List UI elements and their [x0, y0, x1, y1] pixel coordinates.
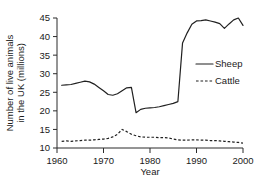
y-axis-title-line2: in the UK (millions) — [15, 43, 26, 123]
y-axis-tick-label: 15 — [39, 124, 50, 135]
x-axis-tick-label: 1990 — [186, 155, 207, 166]
y-axis-tick-label: 45 — [39, 12, 50, 23]
x-axis-tick-label: 1980 — [139, 155, 160, 166]
line-chart-canvas: 1015202530354045 19601970198019902000 Nu… — [0, 0, 261, 180]
y-axis-tick-label: 20 — [39, 105, 50, 116]
y-axis-tick-label: 30 — [39, 68, 50, 79]
y-axis-title-line1: Number of live animals — [4, 34, 15, 131]
legend-label-cattle: Cattle — [215, 75, 240, 86]
x-axis-tick-label: 1970 — [93, 155, 114, 166]
x-axis-tick-label: 1960 — [46, 155, 67, 166]
x-axis-title: Year — [140, 166, 159, 177]
x-axis-tick-label: 2000 — [232, 155, 253, 166]
legend-label-sheep: Sheep — [215, 58, 242, 69]
y-axis-tick-label: 10 — [39, 142, 50, 153]
chart-figure: 1015202530354045 19601970198019902000 Nu… — [0, 0, 261, 180]
y-axis-title: Number of live animals in the UK (millio… — [4, 34, 26, 131]
y-axis-tick-label: 35 — [39, 50, 50, 61]
y-axis-tick-label: 40 — [39, 31, 50, 42]
y-axis-tick-label: 25 — [39, 87, 50, 98]
